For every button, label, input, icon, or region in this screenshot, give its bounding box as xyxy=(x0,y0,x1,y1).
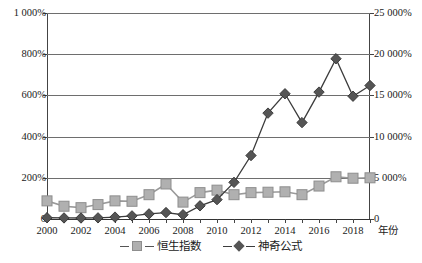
x-axis-tick-mark xyxy=(268,219,269,223)
gridline xyxy=(47,95,370,96)
legend-line-icon xyxy=(246,246,255,247)
x-axis-tick-mark xyxy=(166,219,167,223)
gridline xyxy=(47,137,370,138)
legend-line-icon xyxy=(223,246,232,247)
gridline xyxy=(47,178,370,179)
right-axis-tick-label: 10 000% xyxy=(374,132,412,142)
x-axis-tick-mark xyxy=(149,219,150,223)
x-axis-tick-mark xyxy=(217,219,218,223)
gridline xyxy=(47,54,370,55)
x-axis-tick-mark xyxy=(132,219,133,223)
right-axis-tick-label: 15 000% xyxy=(374,90,412,100)
legend-line-icon xyxy=(120,246,129,247)
left-axis-tick-label: 200% xyxy=(22,173,47,183)
x-axis-tick-label: 2018 xyxy=(333,225,373,236)
x-axis-tick-mark xyxy=(47,219,48,223)
x-axis-tick-mark xyxy=(302,219,303,223)
x-axis-tick-mark xyxy=(285,219,286,223)
left-axis-tick-label: 600% xyxy=(22,90,47,100)
x-axis-tick-mark xyxy=(251,219,252,223)
left-axis-tick-label: 400% xyxy=(22,132,47,142)
x-axis-tick-mark xyxy=(200,219,201,223)
x-axis-tick-mark xyxy=(336,219,337,223)
x-axis-tick-mark xyxy=(81,219,82,223)
diamond-marker-icon xyxy=(233,240,244,251)
legend-item-magic-formula: 神奇公式 xyxy=(223,240,302,252)
x-axis-tick-mark xyxy=(183,219,184,223)
left-axis-tick-label: 0 xyxy=(41,214,46,224)
legend-label-magic-formula: 神奇公式 xyxy=(258,240,302,252)
left-axis-tick-label: 800% xyxy=(22,49,47,59)
legend-item-hang-seng: 恒生指数 xyxy=(120,240,201,252)
x-axis-line xyxy=(47,219,370,220)
x-axis-tick-mark xyxy=(370,219,371,223)
dual-axis-line-chart: 0200%400%600%800%1 000% 05 000%10 000%15… xyxy=(0,0,422,263)
right-axis-tick-label: 5 000% xyxy=(374,173,406,183)
x-axis-tick-mark xyxy=(64,219,65,223)
plot-area-frame xyxy=(47,13,370,219)
right-axis-tick-label: 0 xyxy=(374,214,379,224)
x-axis-tick-mark xyxy=(98,219,99,223)
x-axis-tick-mark xyxy=(234,219,235,223)
x-axis-tick-mark xyxy=(319,219,320,223)
gridline xyxy=(47,13,370,14)
left-axis-tick-label: 1 000% xyxy=(14,8,46,18)
x-axis-tick-mark xyxy=(353,219,354,223)
legend-label-hang-seng: 恒生指数 xyxy=(157,240,201,252)
square-marker-icon xyxy=(132,241,142,251)
legend-line-icon xyxy=(145,246,154,247)
x-axis-title: 年份 xyxy=(378,225,398,236)
right-axis-tick-label: 25 000% xyxy=(374,8,412,18)
chart-legend: 恒生指数 神奇公式 xyxy=(0,240,422,252)
right-axis-tick-label: 20 000% xyxy=(374,49,412,59)
x-axis-tick-mark xyxy=(115,219,116,223)
